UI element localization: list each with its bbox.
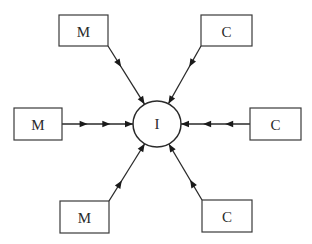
hub-label: I xyxy=(155,116,160,132)
edge-c-top xyxy=(168,46,201,104)
arrowhead-icon xyxy=(125,121,133,127)
node-label: M xyxy=(31,117,44,133)
node-label: C xyxy=(221,24,231,40)
hub-node: I xyxy=(133,101,181,147)
node-c-right: C xyxy=(250,108,301,140)
arrowhead-icon xyxy=(115,180,122,189)
arrowhead-icon xyxy=(168,95,175,104)
node-m-bottom: M xyxy=(60,201,109,233)
arrowhead-icon xyxy=(181,121,189,127)
arrowhead-icon xyxy=(225,121,233,127)
arrowhead-icon xyxy=(102,121,110,127)
arrowhead-icon xyxy=(169,144,176,153)
arrowhead-icon xyxy=(114,59,121,68)
node-label: C xyxy=(222,209,232,225)
edge-m-bottom xyxy=(109,144,145,201)
arrowhead-icon xyxy=(203,121,211,127)
arrowhead-icon xyxy=(138,144,145,153)
arrowhead-icon xyxy=(80,121,88,127)
node-c-bottom: C xyxy=(202,200,252,232)
node-m-left: M xyxy=(14,108,62,140)
arrowhead-icon xyxy=(189,58,196,67)
node-label: M xyxy=(77,24,90,40)
arrowhead-icon xyxy=(138,96,145,105)
node-label: C xyxy=(270,117,280,133)
node-label: M xyxy=(78,210,91,226)
hub-spoke-diagram: I MCMCMC xyxy=(0,0,312,244)
arrowhead-icon xyxy=(190,180,197,189)
node-m-top: M xyxy=(59,15,108,46)
edge-m-top xyxy=(108,46,145,104)
edge-c-bottom xyxy=(169,144,202,200)
node-c-top: C xyxy=(201,15,252,46)
